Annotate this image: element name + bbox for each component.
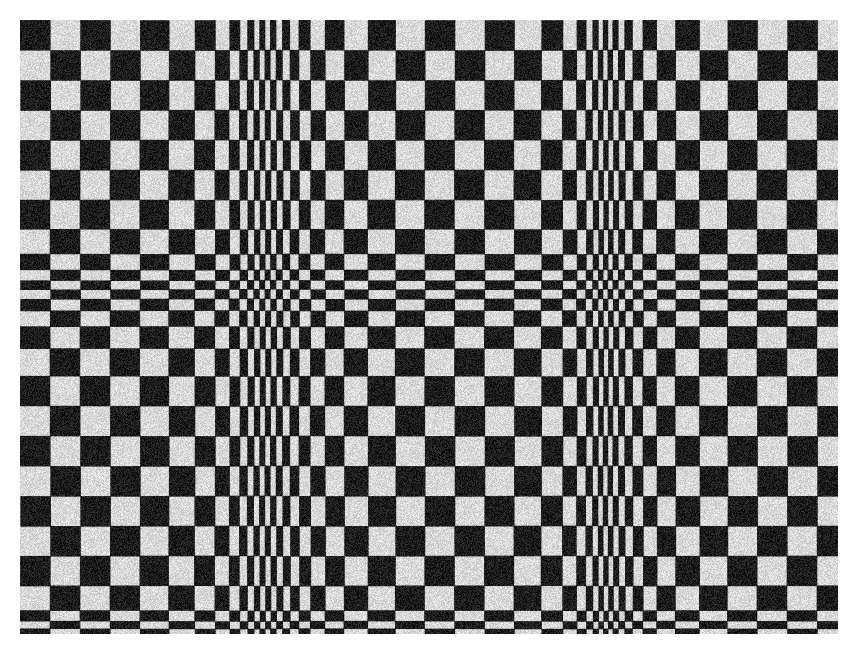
textile-checkerboard-photo — [0, 0, 852, 646]
